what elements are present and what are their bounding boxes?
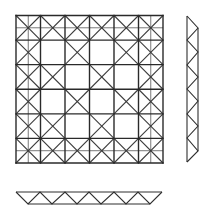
web-zigzag [187,16,198,162]
web-zigzag [16,192,162,204]
side-elevation-truss [187,16,198,162]
space-frame-diagram [0,0,211,220]
bottom-elevation-truss [16,192,162,204]
space-frame-plan-view [16,16,163,164]
